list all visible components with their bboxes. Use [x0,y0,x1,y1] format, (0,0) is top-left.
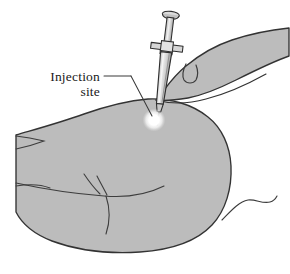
tail-line [222,196,277,220]
limb-body [16,99,231,253]
flange-collar [160,41,173,52]
illustration-canvas: Injection site [0,0,290,274]
label-line-2: site [80,84,100,99]
finger [156,28,289,100]
label-line-1: Injection [50,69,100,84]
injection-site-marker [143,109,166,132]
site-dot [149,115,158,124]
injection-site-figure: Injection site [0,0,290,274]
hand [156,28,289,103]
limb-outline [16,99,231,253]
injection-site-label: Injection site [50,69,100,99]
